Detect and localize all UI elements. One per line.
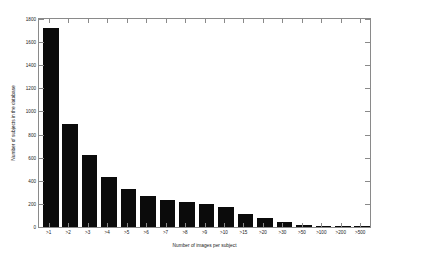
bar-slot	[314, 19, 333, 227]
x-tick-mark-top	[341, 19, 342, 23]
x-tick-mark-top	[205, 19, 206, 23]
x-axis-title: Number of images per subject	[38, 243, 371, 248]
x-tick-label: >8	[182, 230, 187, 235]
x-tick-mark-top	[166, 19, 167, 23]
x-tick-mark-top	[146, 19, 147, 23]
bar	[179, 202, 195, 227]
x-tick-mark	[282, 223, 283, 227]
y-tick-mark	[39, 158, 44, 159]
y-tick-label: 1000	[26, 109, 36, 114]
bar-slot	[216, 19, 235, 227]
y-tick-mark-right	[365, 181, 370, 182]
y-tick-mark	[39, 204, 44, 205]
x-tick-label: >500	[355, 230, 365, 235]
y-tick-mark-right	[365, 88, 370, 89]
x-tick-mark	[127, 223, 128, 227]
y-tick-label: 1800	[26, 17, 36, 22]
bar	[277, 222, 293, 227]
bar	[316, 226, 332, 227]
x-tick-mark	[302, 223, 303, 227]
y-tick-mark	[39, 42, 44, 43]
y-tick-mark	[39, 65, 44, 66]
bar	[43, 28, 59, 227]
y-tick-mark-right	[365, 227, 370, 228]
x-tick-mark	[49, 223, 50, 227]
x-tick-mark-top	[88, 19, 89, 23]
bar	[296, 225, 312, 227]
x-tick-mark-top	[321, 19, 322, 23]
x-tick-label: >4	[105, 230, 110, 235]
y-tick-mark	[39, 88, 44, 89]
x-tick-mark-top	[243, 19, 244, 23]
bar-slot	[138, 19, 157, 227]
x-tick-mark-top	[360, 19, 361, 23]
y-tick-label: 800	[28, 132, 36, 137]
y-tick-label: 1400	[26, 63, 36, 68]
y-tick-mark-right	[365, 65, 370, 66]
x-tick-mark	[68, 223, 69, 227]
x-tick-mark-top	[68, 19, 69, 23]
x-tick-label: >15	[240, 230, 248, 235]
x-tick-mark-top	[49, 19, 50, 23]
bar	[62, 124, 78, 227]
bar-slot	[158, 19, 177, 227]
x-tick-mark	[205, 223, 206, 227]
bar-slot	[353, 19, 372, 227]
y-tick-label: 1200	[26, 86, 36, 91]
x-tick-mark-top	[302, 19, 303, 23]
y-tick-label: 0	[33, 225, 36, 230]
x-tick-label: >1	[46, 230, 51, 235]
x-tick-label: >5	[124, 230, 129, 235]
x-tick-label: >100	[316, 230, 326, 235]
x-tick-mark	[321, 223, 322, 227]
x-tick-mark	[360, 223, 361, 227]
bar	[238, 214, 254, 227]
x-tick-label: >2	[66, 230, 71, 235]
x-tick-label: >9	[202, 230, 207, 235]
bar-slot	[99, 19, 118, 227]
x-tick-mark	[224, 223, 225, 227]
x-tick-mark-top	[263, 19, 264, 23]
x-tick-mark	[243, 223, 244, 227]
x-tick-mark	[107, 223, 108, 227]
y-tick-mark	[39, 227, 44, 228]
x-tick-mark-top	[224, 19, 225, 23]
x-tick-label: >10	[220, 230, 228, 235]
bar	[82, 155, 98, 227]
x-tick-mark	[88, 223, 89, 227]
x-tick-mark	[166, 223, 167, 227]
bar	[199, 204, 215, 227]
y-tick-mark-right	[365, 19, 370, 20]
bar-slot	[60, 19, 79, 227]
bar-series	[39, 19, 370, 227]
x-tick-mark-top	[127, 19, 128, 23]
x-tick-label: >6	[143, 230, 148, 235]
x-tick-mark-top	[107, 19, 108, 23]
x-tick-mark	[341, 223, 342, 227]
bar	[140, 196, 156, 227]
bar	[335, 226, 351, 227]
bar-slot	[333, 19, 352, 227]
y-tick-mark-right	[365, 204, 370, 205]
y-tick-label: 1600	[26, 40, 36, 45]
x-tick-mark-top	[282, 19, 283, 23]
bar-slot	[294, 19, 313, 227]
x-tick-mark	[263, 223, 264, 227]
y-tick-label: 600	[28, 155, 36, 160]
y-tick-mark	[39, 181, 44, 182]
x-tick-label: >7	[163, 230, 168, 235]
y-tick-mark	[39, 19, 44, 20]
bar-slot	[119, 19, 138, 227]
x-tick-mark-top	[185, 19, 186, 23]
bar	[121, 189, 137, 227]
bar	[218, 207, 234, 227]
y-tick-mark	[39, 111, 44, 112]
bar-slot	[255, 19, 274, 227]
bar-slot	[197, 19, 216, 227]
x-tick-label: >20	[259, 230, 267, 235]
x-tick-label: >200	[336, 230, 346, 235]
chart-figure: 020040060080010001200140016001800 >1>2>3…	[0, 0, 424, 259]
y-tick-mark-right	[365, 158, 370, 159]
bar-slot	[177, 19, 196, 227]
bar-slot	[41, 19, 60, 227]
